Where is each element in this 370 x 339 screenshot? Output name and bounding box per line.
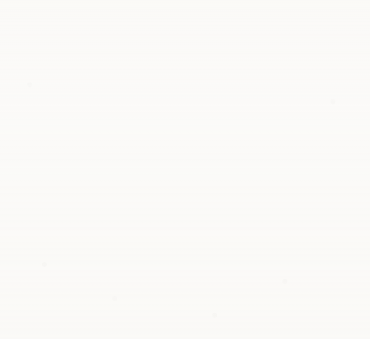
figure-canvas — [0, 0, 370, 339]
beats-figure — [0, 0, 370, 339]
